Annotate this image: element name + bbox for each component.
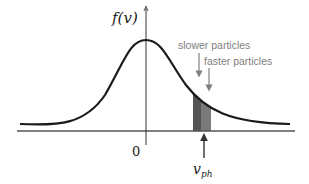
velocity-distribution-diagram: f(v) 0 slower particles faster particles… <box>0 0 309 184</box>
y-axis-label: f(v) <box>111 9 138 27</box>
annotation-slower-particles: slower particles <box>178 39 250 51</box>
distribution-curve <box>20 40 290 125</box>
phase-velocity-label: vph <box>193 161 212 179</box>
annotation-faster-particles: faster particles <box>204 55 272 67</box>
origin-label: 0 <box>132 144 140 159</box>
